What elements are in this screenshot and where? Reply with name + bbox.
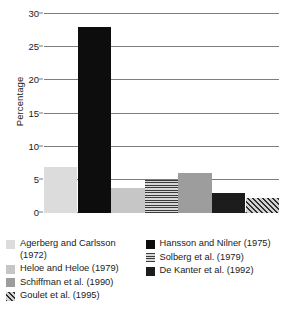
y-tick-mark-15: [39, 112, 43, 113]
y-tick-mark-5: [39, 178, 43, 179]
plot-area: 051015202530: [44, 14, 279, 213]
legend-item[interactable]: Solberg et al. (1979): [146, 252, 280, 264]
y-tick-label-20: 20: [28, 74, 39, 85]
bar-6: [212, 193, 245, 213]
bar-5: [178, 173, 211, 213]
legend-item-label: De Kanter et al. (1992): [160, 265, 254, 277]
y-tick-label-15: 15: [28, 107, 39, 118]
bar-7: [246, 198, 279, 213]
legend-swatch-heloe: [6, 265, 15, 274]
y-tick-label-30: 30: [28, 8, 39, 19]
legend-column-right: Hansson and Nilner (1975)Solberg et al. …: [146, 238, 280, 302]
legend-swatch-solberg: [146, 253, 155, 262]
y-tick-label-25: 25: [28, 41, 39, 52]
bar-series: [44, 14, 279, 213]
bar-chart: Percentage 051015202530: [0, 0, 285, 232]
legend-swatch-hansson: [146, 240, 155, 249]
y-axis-title: Percentage: [14, 47, 25, 157]
bar-3: [111, 188, 144, 213]
legend-item-label: Agerberg and Carlsson (1972): [20, 238, 140, 261]
legend-swatch-schiffman: [6, 278, 15, 287]
legend: Agerberg and Carlsson (1972)Heloe and He…: [6, 238, 279, 302]
legend-item-label: Schiffman et al. (1990): [20, 277, 113, 289]
legend-swatch-goulet: [6, 292, 15, 301]
legend-item[interactable]: Hansson and Nilner (1975): [146, 238, 280, 250]
y-tick-label-10: 10: [28, 140, 39, 151]
y-tick-mark-20: [39, 79, 43, 80]
bar-1: [44, 167, 77, 213]
legend-item[interactable]: Goulet et al. (1995): [6, 290, 140, 302]
plot-canvas: 051015202530: [44, 14, 279, 213]
bar-2: [78, 27, 111, 213]
legend-item-label: Goulet et al. (1995): [20, 290, 100, 302]
bar-4: [145, 180, 178, 213]
y-tick-mark-25: [39, 46, 43, 47]
legend-item-label: Solberg et al. (1979): [160, 252, 244, 264]
legend-swatch-dekanter: [146, 267, 155, 276]
legend-item[interactable]: Heloe and Heloe (1979): [6, 263, 140, 275]
y-tick-mark-0: [39, 212, 43, 213]
chart-page: Percentage 051015202530 Agerberg and Car…: [0, 0, 285, 319]
legend-item-label: Hansson and Nilner (1975): [160, 238, 271, 250]
legend-column-left: Agerberg and Carlsson (1972)Heloe and He…: [6, 238, 140, 302]
legend-swatch-agerberg: [6, 240, 15, 249]
legend-item-label: Heloe and Heloe (1979): [20, 263, 119, 275]
legend-item[interactable]: Schiffman et al. (1990): [6, 277, 140, 289]
legend-item[interactable]: Agerberg and Carlsson (1972): [6, 238, 140, 261]
y-tick-mark-30: [39, 13, 43, 14]
y-tick-mark-10: [39, 145, 43, 146]
legend-item[interactable]: De Kanter et al. (1992): [146, 265, 280, 277]
